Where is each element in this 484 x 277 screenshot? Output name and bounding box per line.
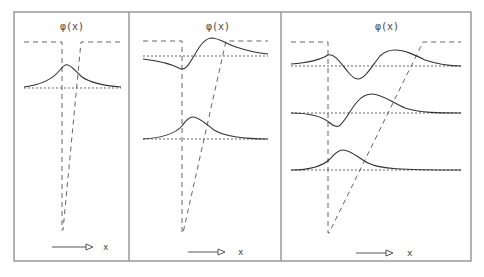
panel-2: φ(x) x [143, 21, 268, 257]
panel-3: φ(x) x [291, 21, 461, 258]
arrowhead-icon [386, 250, 393, 256]
wavefunction-ground [143, 117, 268, 139]
potential-well [291, 42, 461, 233]
wavefunction-diagram: φ(x) x φ(x) x φ(x) x [0, 0, 484, 277]
panel-1: φ(x) x [24, 21, 121, 252]
arrowhead-icon [218, 249, 225, 255]
potential-well [24, 42, 121, 230]
axis-label: x [407, 248, 413, 258]
panel-title: φ(x) [206, 21, 230, 32]
panel-title: φ(x) [60, 21, 84, 32]
wavefunction-n2 [291, 94, 461, 126]
wavefunction-n3 [291, 50, 461, 79]
arrowhead-icon [86, 244, 93, 250]
axis-label: x [103, 242, 109, 252]
wavefunction-excited [143, 38, 268, 69]
wavefunction-ground [24, 65, 121, 87]
wavefunction-n1 [291, 150, 461, 170]
panel-title: φ(x) [375, 21, 399, 32]
axis-label: x [238, 247, 244, 257]
